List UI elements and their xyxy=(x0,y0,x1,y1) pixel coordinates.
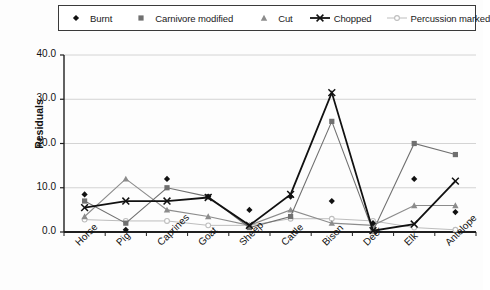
series-line xyxy=(85,219,456,230)
square-marker-icon xyxy=(164,185,169,190)
series-line xyxy=(85,93,456,231)
series-burnt xyxy=(82,176,459,233)
y-tick-label-40: 40.0 xyxy=(22,48,56,59)
y-tick-label-30: 30.0 xyxy=(22,92,56,103)
square-marker-icon xyxy=(123,221,128,226)
triangle-marker-icon xyxy=(123,176,129,182)
diamond-marker-icon xyxy=(164,176,170,182)
diamond-marker-icon xyxy=(452,209,458,215)
series-line xyxy=(85,121,456,231)
square-marker-icon xyxy=(329,119,334,124)
y-tick-label-10: 10.0 xyxy=(22,181,56,192)
circle-marker-icon xyxy=(165,219,170,224)
square-marker-icon xyxy=(288,214,293,219)
diamond-marker-icon xyxy=(246,207,252,213)
square-marker-icon xyxy=(82,198,87,203)
diamond-marker-icon xyxy=(329,198,335,204)
diamond-marker-icon xyxy=(82,191,88,197)
series-line xyxy=(85,179,456,225)
y-tick-label-20: 20.0 xyxy=(22,137,56,148)
diamond-marker-icon xyxy=(411,176,417,182)
x-marker-icon xyxy=(452,178,459,185)
square-marker-icon xyxy=(453,152,458,157)
series-percussion-marked xyxy=(82,216,458,232)
square-marker-icon xyxy=(412,141,417,146)
series-carnivore-modified xyxy=(82,119,458,234)
y-tick-label-0: 0.0 xyxy=(22,225,56,236)
